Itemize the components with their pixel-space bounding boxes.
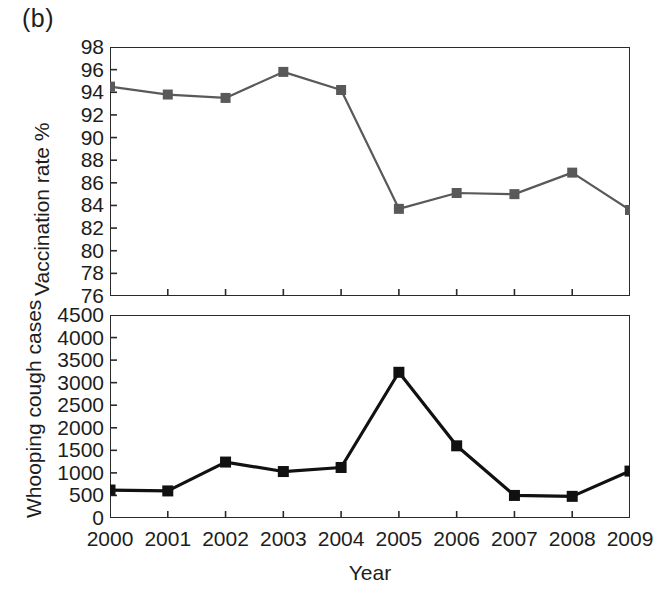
data-point-marker — [220, 457, 231, 468]
y-tick-label: 98 — [81, 35, 104, 59]
y-tick-label: 82 — [81, 216, 104, 240]
vaccination-rate-series-layer — [110, 47, 630, 296]
y-tick-label: 90 — [81, 126, 104, 150]
data-point-marker — [394, 204, 404, 214]
y-tick-label: 4500 — [57, 303, 104, 327]
y-tick-label: 86 — [81, 171, 104, 195]
y-tick-label: 84 — [81, 193, 104, 217]
data-point-marker — [567, 491, 578, 502]
y-tick-label: 1000 — [57, 461, 104, 485]
y-tick-label: 1500 — [57, 438, 104, 462]
data-point-marker — [162, 485, 173, 496]
data-point-marker — [163, 90, 173, 100]
y-tick-label: 78 — [81, 261, 104, 285]
y-tick-label: 3500 — [57, 348, 104, 372]
data-point-marker — [625, 205, 630, 215]
data-point-marker — [278, 67, 288, 77]
y-tick-label: 3000 — [57, 371, 104, 395]
data-point-marker — [336, 85, 346, 95]
x-tick-label: 2006 — [433, 527, 480, 551]
x-tick-label: 2008 — [549, 527, 596, 551]
chart-whooping-cough-cases — [110, 315, 630, 518]
data-point-marker — [451, 440, 462, 451]
x-tick-label: 2009 — [607, 527, 654, 551]
panel-label: (b) — [22, 4, 54, 33]
data-point-marker — [336, 462, 347, 473]
data-point-marker — [393, 367, 404, 378]
whooping-cough-series-layer — [110, 315, 630, 518]
series-line — [110, 72, 630, 210]
x-tick-label: 2004 — [318, 527, 365, 551]
y-tick-label: 96 — [81, 58, 104, 82]
x-tick-label: 2000 — [87, 527, 134, 551]
figure-root: (b) 989694929088868482807876 Vaccination… — [0, 0, 658, 600]
y-axis-ticks-top: 989694929088868482807876 — [58, 47, 104, 296]
data-point-marker — [509, 490, 520, 501]
x-axis-title: Year — [349, 561, 391, 585]
y-axis-title-bottom: Whooping cough cases — [22, 300, 46, 518]
data-point-marker — [110, 82, 115, 92]
data-point-marker — [110, 485, 116, 496]
x-tick-label: 2001 — [144, 527, 191, 551]
y-tick-label: 2500 — [57, 393, 104, 417]
data-point-marker — [567, 168, 577, 178]
x-axis-ticks: 2000200120022003200420052006200720082009 — [0, 527, 658, 553]
data-point-marker — [625, 466, 631, 477]
y-axis-ticks-bottom: 450040003500300025002000150010005000 — [50, 315, 104, 518]
series-line — [110, 372, 630, 496]
y-tick-label: 500 — [69, 483, 104, 507]
y-tick-label: 94 — [81, 80, 104, 104]
y-tick-label: 2000 — [57, 416, 104, 440]
data-point-marker — [221, 93, 231, 103]
x-tick-label: 2003 — [260, 527, 307, 551]
y-tick-label: 88 — [81, 148, 104, 172]
y-tick-label: 92 — [81, 103, 104, 127]
y-tick-label: 4000 — [57, 326, 104, 350]
x-tick-label: 2002 — [202, 527, 249, 551]
data-point-marker — [452, 188, 462, 198]
x-tick-label: 2005 — [376, 527, 423, 551]
data-point-marker — [509, 189, 519, 199]
chart-vaccination-rate — [110, 47, 630, 296]
data-point-marker — [278, 466, 289, 477]
x-tick-label: 2007 — [491, 527, 538, 551]
y-axis-title-top: Vaccination rate % — [30, 122, 54, 296]
y-tick-label: 80 — [81, 239, 104, 263]
